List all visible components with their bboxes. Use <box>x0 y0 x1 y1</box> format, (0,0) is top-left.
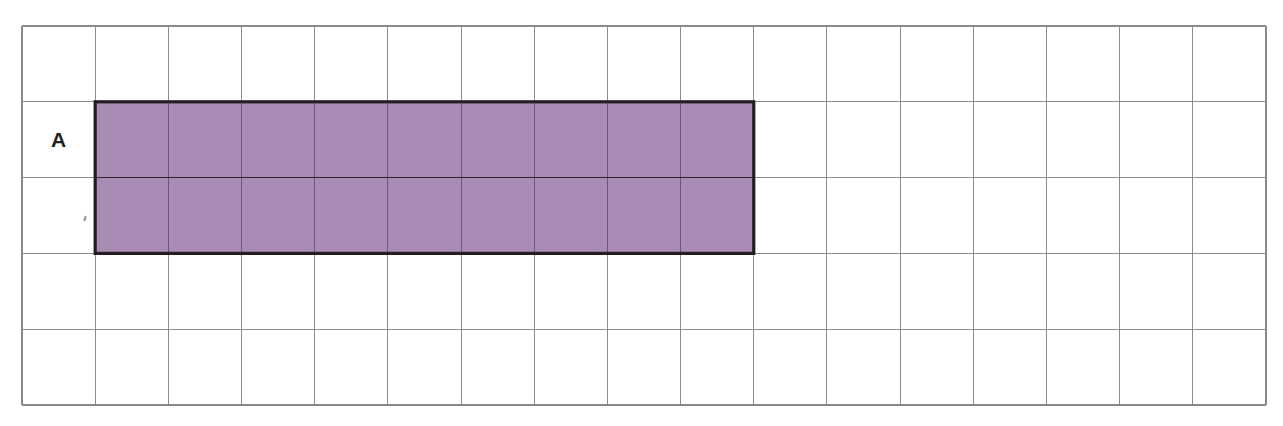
grid-diagram-canvas: A <box>0 0 1283 426</box>
rectangle-A <box>95 102 754 254</box>
shapes-layer <box>95 102 754 254</box>
grid-svg <box>0 0 1283 426</box>
shape-label-a: A <box>47 129 71 150</box>
